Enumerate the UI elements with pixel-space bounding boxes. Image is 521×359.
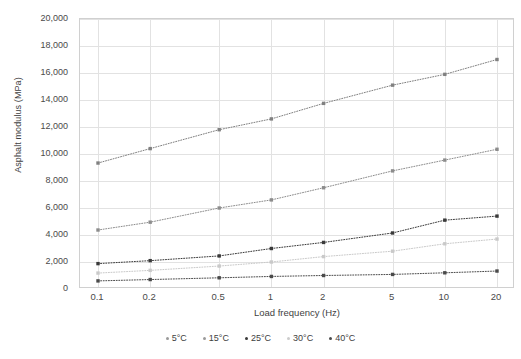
legend-label: 25°C: [251, 333, 271, 343]
data-point-marker: [96, 262, 99, 265]
data-point-marker: [391, 83, 394, 86]
data-point-marker: [391, 169, 394, 172]
data-point-marker: [443, 242, 446, 245]
data-point-marker: [443, 158, 446, 161]
y-axis-tick-label: 4,000: [20, 229, 68, 239]
chart-container: Asphalt modulus (MPa) 02,0004,0006,0008,…: [0, 0, 521, 359]
data-point-marker: [322, 186, 325, 189]
x-axis-tick-label: 5: [372, 291, 412, 302]
series-line: [98, 271, 497, 281]
legend-marker-icon: [329, 337, 332, 340]
plot-area: [79, 18, 514, 288]
legend-item-25C[interactable]: 25°C: [245, 333, 271, 343]
y-axis-tick-label: 6,000: [20, 202, 68, 212]
data-point-marker: [443, 218, 446, 221]
data-point-marker: [96, 271, 99, 274]
y-axis-tick-label: 20,000: [20, 13, 68, 23]
y-axis-tick-label: 2,000: [20, 256, 68, 266]
x-axis-title: Load frequency (Hz): [80, 307, 514, 318]
x-axis-tick-label: 0.1: [77, 291, 117, 302]
legend-label: 40°C: [335, 333, 355, 343]
data-point-marker: [96, 279, 99, 282]
data-point-marker: [270, 198, 273, 201]
y-axis-tick-label: 16,000: [20, 67, 68, 77]
data-point-marker: [495, 269, 498, 272]
legend-item-40C[interactable]: 40°C: [329, 333, 355, 343]
data-point-marker: [322, 102, 325, 105]
y-axis-tick-labels: 02,0004,0006,0008,00010,00012,00014,0001…: [14, 0, 68, 359]
data-point-marker: [391, 250, 394, 253]
data-point-marker: [322, 255, 325, 258]
series-15C: [96, 148, 498, 232]
x-axis-tick-label: 20: [476, 291, 516, 302]
data-point-marker: [96, 161, 99, 164]
data-point-marker: [218, 128, 221, 131]
y-axis-tick-label: 0: [20, 283, 68, 293]
data-point-marker: [443, 73, 446, 76]
series-5C: [96, 58, 498, 165]
data-point-marker: [149, 278, 152, 281]
data-point-marker: [322, 274, 325, 277]
y-axis-tick-label: 10,000: [20, 148, 68, 158]
data-point-marker: [495, 237, 498, 240]
y-axis-tick-label: 14,000: [20, 94, 68, 104]
chart-legend: 5°C15°C25°C30°C40°C: [0, 333, 521, 343]
y-axis-tick-label: 12,000: [20, 121, 68, 131]
y-axis-tick-label: 8,000: [20, 175, 68, 185]
x-axis-tick-label: 0.2: [129, 291, 169, 302]
legend-item-30C[interactable]: 30°C: [287, 333, 313, 343]
data-point-marker: [270, 275, 273, 278]
data-point-marker: [149, 259, 152, 262]
data-point-marker: [391, 231, 394, 234]
data-point-marker: [270, 117, 273, 120]
data-point-marker: [218, 206, 221, 209]
legend-label: 15°C: [209, 333, 229, 343]
series-line: [98, 60, 497, 164]
data-point-marker: [495, 58, 498, 61]
data-point-marker: [149, 147, 152, 150]
data-point-marker: [218, 264, 221, 267]
x-axis-tick-label: 10: [424, 291, 464, 302]
data-point-marker: [149, 220, 152, 223]
legend-marker-icon: [166, 337, 169, 340]
data-point-marker: [443, 271, 446, 274]
data-point-marker: [322, 241, 325, 244]
data-point-marker: [391, 273, 394, 276]
legend-marker-icon: [245, 337, 248, 340]
series-line: [98, 149, 497, 230]
series-line: [98, 239, 497, 273]
data-point-marker: [270, 247, 273, 250]
legend-label: 5°C: [172, 333, 187, 343]
series-layer: [80, 19, 515, 289]
x-axis-tick-label: 1: [250, 291, 290, 302]
legend-marker-icon: [203, 337, 206, 340]
data-point-marker: [218, 276, 221, 279]
data-point-marker: [218, 254, 221, 257]
x-axis-tick-label: 2: [303, 291, 343, 302]
series-30C: [96, 237, 498, 274]
legend-marker-icon: [287, 337, 290, 340]
legend-item-5C[interactable]: 5°C: [166, 333, 187, 343]
series-40C: [96, 269, 498, 282]
data-point-marker: [495, 214, 498, 217]
data-point-marker: [149, 269, 152, 272]
data-point-marker: [96, 228, 99, 231]
y-axis-tick-label: 18,000: [20, 40, 68, 50]
data-point-marker: [270, 260, 273, 263]
series-25C: [96, 214, 498, 265]
data-point-marker: [495, 148, 498, 151]
legend-label: 30°C: [293, 333, 313, 343]
legend-item-15C[interactable]: 15°C: [203, 333, 229, 343]
x-axis-tick-label: 0.5: [198, 291, 238, 302]
series-line: [98, 216, 497, 264]
